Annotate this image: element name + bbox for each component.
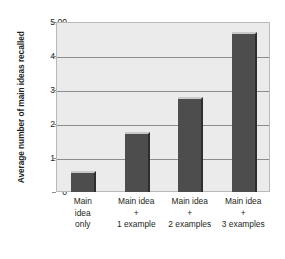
bar [178,97,203,192]
bar-chart: Average number of main ideas recalled 01… [0,0,285,259]
x-category-label-line: + [163,208,217,220]
x-category-label-line: Main idea [217,196,271,208]
x-category-label-line: 3 examples [217,219,271,231]
bar [125,132,150,192]
x-category-label-line: 2 examples [163,219,217,231]
x-category-label-line: Main idea [163,196,217,208]
x-category-label-line: 1 example [110,219,164,231]
x-category-label: Mainideaonly [56,196,110,231]
x-category-label: Main idea+3 examples [217,196,271,231]
bar [71,171,96,192]
x-category-label: Main idea+1 example [110,196,164,231]
y-tick-mark [52,192,56,193]
y-axis-title: Average number of main ideas recalled [17,17,25,197]
x-category-label: Main idea+2 examples [163,196,217,231]
x-category-label-line: + [217,208,271,220]
bar [232,32,257,193]
x-category-label-line: idea [56,208,110,220]
x-category-label-line: + [110,208,164,220]
x-category-label-line: Main [56,196,110,208]
x-category-label-line: Main idea [110,196,164,208]
plot-area [56,22,270,192]
x-category-label-line: only [56,219,110,231]
